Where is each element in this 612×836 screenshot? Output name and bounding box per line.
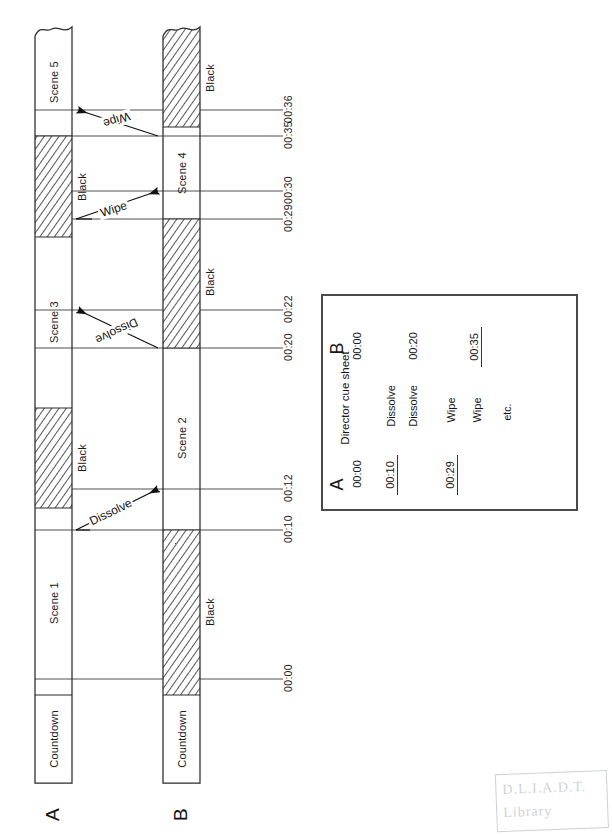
cue-sheet-row-4-transition: Wipe — [471, 388, 483, 432]
track-label-b: B — [170, 791, 192, 821]
band-label-b-black3: Black — [204, 44, 216, 112]
cue-sheet-row-1-transition: Dissolve — [385, 380, 397, 432]
band-b-black-2 — [163, 219, 200, 348]
cue-sheet-footer: etc. — [501, 392, 513, 432]
tick-label-0022: 00:22 — [282, 289, 294, 329]
band-label-a-countdown: Countdown — [48, 699, 60, 779]
library-stamp-line-1: D.L.I.A.D.T. — [502, 779, 587, 798]
cue-sheet-row-3-a-time: 00:29 — [444, 455, 458, 495]
tick-label-0036: 00:36 — [282, 89, 294, 129]
cue-sheet-header-a: A — [327, 471, 348, 499]
band-label-a-black1: Black — [76, 424, 88, 492]
band-label-b-countdown: Countdown — [176, 699, 188, 779]
band-b-black-3 — [163, 26, 200, 127]
cue-sheet-row-2-transition: Dissolve — [407, 380, 419, 432]
tick-label-0010: 00:10 — [282, 509, 294, 549]
cue-sheet-title: Director cue sheet — [339, 350, 351, 446]
cue-sheet-header-b: B — [327, 335, 348, 363]
track-label-a: A — [42, 791, 64, 821]
band-a-black-2 — [35, 136, 72, 237]
band-label-a-black2: Black — [76, 153, 88, 221]
band-label-b-scene2: Scene 2 — [176, 404, 188, 472]
cue-sheet-row-4-b-time: 00:35 — [468, 327, 482, 367]
figure-canvas: A B Countdown Scene 1 Black Scene 3 Blac… — [0, 0, 612, 836]
tick-label-0012: 00:12 — [282, 468, 294, 508]
cue-sheet-row-1-a-time: 00:10 — [384, 455, 398, 495]
tick-label-0000: 00:00 — [282, 658, 294, 698]
library-stamp-line-2: Library — [503, 803, 553, 821]
cue-sheet-row-3-transition: Wipe — [445, 388, 457, 432]
band-label-a-scene5: Scene 5 — [48, 48, 60, 116]
band-a-black-1 — [35, 408, 72, 508]
band-label-a-scene1: Scene 1 — [48, 569, 60, 637]
tick-label-0020: 00:20 — [282, 327, 294, 367]
library-stamp: D.L.I.A.D.T. Library — [495, 770, 612, 836]
band-label-a-scene3: Scene 3 — [48, 288, 60, 356]
band-label-b-black1: Black — [204, 578, 216, 646]
band-b-black-1 — [163, 530, 200, 695]
director-cue-sheet-inset: Director cue sheet A B 00:00 00:00 00:10… — [321, 294, 578, 511]
cue-sheet-row-0-b-time: 00:00 — [351, 326, 363, 366]
tick-label-0030: 00:30 — [282, 170, 294, 210]
cue-sheet-row-2-b-time: 00:20 — [407, 326, 419, 366]
band-label-b-scene4: Scene 4 — [176, 139, 188, 207]
cue-sheet-row-0-a-time: 00:00 — [351, 454, 363, 494]
band-label-b-black2: Black — [204, 248, 216, 316]
track-a — [35, 27, 72, 783]
